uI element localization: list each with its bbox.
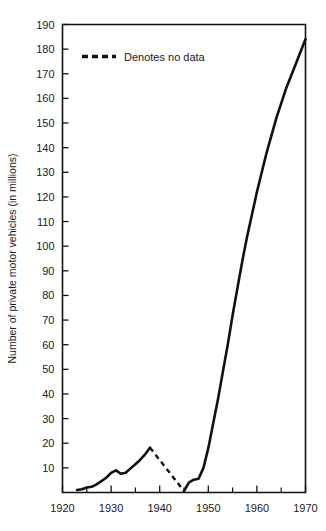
y-tick-label-90: 90 [42,265,54,277]
x-tick-label-1960: 1960 [245,502,269,514]
y-tick-label-130: 130 [36,166,54,178]
y-axis-title: Number of private motor vehicles (in mil… [6,153,18,363]
y-tick-label-170: 170 [36,68,54,80]
y-tick-label-10: 10 [42,462,54,474]
y-tick-label-190: 190 [36,19,54,31]
y-tick-label-50: 50 [42,363,54,375]
y-tick-label-60: 60 [42,339,54,351]
y-tick-label-30: 30 [42,413,54,425]
legend-label: Denotes no data [124,51,206,63]
line-chart: 1020304050607080901001101201301401501601… [0,0,326,531]
y-tick-label-80: 80 [42,289,54,301]
x-tick-label-1920: 1920 [50,502,74,514]
x-tick-label-1940: 1940 [147,502,171,514]
y-tick-label-70: 70 [42,314,54,326]
y-tick-label-100: 100 [36,240,54,252]
y-tick-label-120: 120 [36,191,54,203]
y-tick-label-20: 20 [42,437,54,449]
x-tick-label-1950: 1950 [196,502,220,514]
y-tick-label-140: 140 [36,142,54,154]
x-tick-label-1970: 1970 [293,502,317,514]
y-tick-label-180: 180 [36,43,54,55]
y-tick-label-150: 150 [36,117,54,129]
y-tick-label-110: 110 [37,216,55,228]
y-tick-label-40: 40 [42,388,54,400]
y-tick-label-160: 160 [36,92,54,104]
x-tick-label-1930: 1930 [99,502,123,514]
chart-container: 1020304050607080901001101201301401501601… [0,0,326,531]
